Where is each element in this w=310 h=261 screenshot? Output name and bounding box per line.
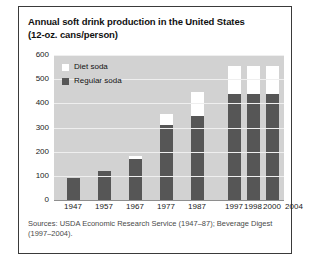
legend-swatch-diet-soda bbox=[62, 64, 69, 71]
legend-swatch-regular-soda bbox=[62, 78, 69, 85]
bar-segment-regular-1947 bbox=[67, 178, 80, 200]
bar-group-1987 bbox=[191, 92, 204, 200]
bar-segment-regular-2000 bbox=[266, 94, 279, 200]
bar-segment-regular-1987 bbox=[191, 116, 204, 200]
bar-segment-regular-1998 bbox=[247, 94, 260, 200]
bar-segment-regular-1967 bbox=[129, 159, 142, 200]
source-note-line-2: (1997–2004). bbox=[28, 229, 282, 239]
y-axis-tick-0: 0 bbox=[45, 196, 49, 204]
x-axis-tick-2004: 2004 bbox=[280, 202, 308, 211]
gridline-100 bbox=[54, 176, 284, 177]
x-axis-tick-1947: 1947 bbox=[59, 202, 87, 211]
y-axis-tick-200: 200 bbox=[36, 148, 49, 156]
y-axis: 6005004003002001000 bbox=[28, 55, 52, 207]
legend-item-regular-soda: Regular soda bbox=[62, 75, 122, 87]
y-axis-tick-600: 600 bbox=[36, 51, 49, 59]
x-axis: 194719571967197719871997199820002004 bbox=[54, 202, 284, 214]
bar-group-2000 bbox=[266, 66, 279, 200]
bar-segment-diet-1977 bbox=[160, 114, 173, 125]
legend-label-regular-soda: Regular soda bbox=[74, 77, 122, 85]
y-axis-tick-500: 500 bbox=[36, 75, 49, 83]
legend-item-diet-soda: Diet soda bbox=[62, 61, 122, 73]
bar-segment-diet-1967 bbox=[129, 156, 142, 159]
plot-wrapper: 6005004003002001000 Diet soda Regular so… bbox=[28, 55, 284, 207]
source-note: Sources: USDA Economic Research Service … bbox=[28, 219, 282, 239]
x-axis-tick-1967: 1967 bbox=[121, 202, 149, 211]
x-axis-tick-1977: 1977 bbox=[152, 202, 180, 211]
chart-figure: Annual soft drink production in the Unit… bbox=[18, 6, 292, 254]
x-axis-tick-1957: 1957 bbox=[90, 202, 118, 211]
gridline-200 bbox=[54, 152, 284, 153]
gridline-300 bbox=[54, 128, 284, 129]
x-axis-baseline bbox=[54, 200, 284, 201]
bar-group-1997 bbox=[228, 66, 241, 200]
bar-group-1998 bbox=[247, 66, 260, 200]
chart-title-block: Annual soft drink production in the Unit… bbox=[28, 16, 284, 41]
legend-label-diet-soda: Diet soda bbox=[74, 63, 108, 71]
plot-area: Diet soda Regular soda bbox=[54, 55, 284, 200]
bar-group-1967 bbox=[129, 156, 142, 200]
gridline-400 bbox=[54, 103, 284, 104]
bar-group-1947 bbox=[67, 178, 80, 200]
bar-segment-regular-1977 bbox=[160, 125, 173, 200]
chart-subtitle: (12-oz. cans/person) bbox=[28, 29, 284, 42]
chart-legend: Diet soda Regular soda bbox=[62, 61, 122, 89]
gridline-600 bbox=[54, 55, 284, 56]
chart-title: Annual soft drink production in the Unit… bbox=[28, 16, 284, 29]
bar-segment-regular-1997 bbox=[228, 94, 241, 200]
y-axis-tick-400: 400 bbox=[36, 99, 49, 107]
y-axis-tick-100: 100 bbox=[36, 172, 49, 180]
source-note-line-1: Sources: USDA Economic Research Service … bbox=[28, 219, 282, 229]
x-axis-tick-1987: 1987 bbox=[183, 202, 211, 211]
y-axis-tick-300: 300 bbox=[36, 124, 49, 132]
